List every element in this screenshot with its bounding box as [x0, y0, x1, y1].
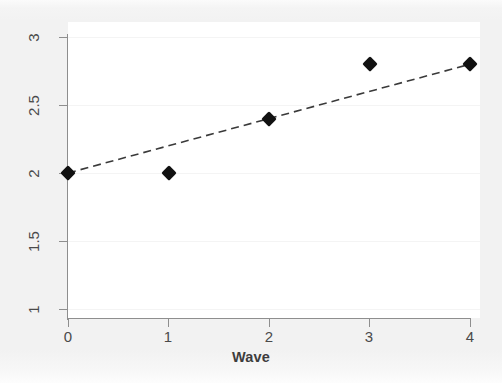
y-tick-label-3: 3: [26, 23, 41, 53]
gridline-3: [68, 309, 480, 310]
x-tick-3: [369, 319, 370, 327]
y-tick-label-2-5: 2.5: [26, 86, 41, 126]
x-tick-1: [168, 319, 169, 327]
x-tick-0: [68, 319, 69, 327]
y-tick-label-1-5: 1.5: [26, 222, 41, 262]
x-tick-label-1: 1: [148, 329, 188, 344]
gridline-1-5: [68, 105, 480, 106]
gridline-2-5: [68, 241, 480, 242]
gridline-1: [68, 37, 480, 38]
x-axis-title: Wave: [0, 349, 502, 365]
y-tick-label-2: 2: [26, 159, 41, 189]
x-tick-label-4: 4: [450, 329, 490, 344]
x-tick-2: [269, 319, 270, 327]
gridline-2: [68, 173, 480, 174]
y-tick-1-5: [59, 241, 67, 242]
y-tick-label-1: 1: [26, 295, 41, 325]
y-tick-1: [59, 309, 67, 310]
y-tick-2-5: [59, 105, 67, 106]
x-tick-4: [470, 319, 471, 327]
chart-figure: 3 2.5 2 1.5 1 0 1 2 3 4 Wave: [0, 0, 502, 383]
y-tick-3: [59, 37, 67, 38]
x-tick-label-2: 2: [249, 329, 289, 344]
x-tick-label-3: 3: [349, 329, 389, 344]
x-tick-label-0: 0: [48, 329, 88, 344]
plot-area: [68, 22, 480, 318]
